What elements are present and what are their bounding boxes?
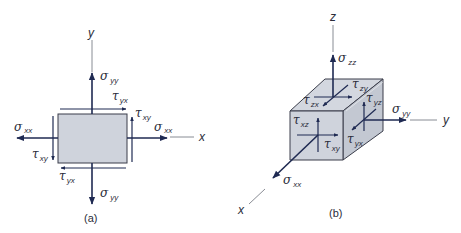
label-tau-xy-right: τxy (135, 106, 152, 122)
x-axis-label-a: x (198, 130, 206, 144)
stress-element-square (58, 114, 127, 163)
label-sigma-yy-bottom: σyy (100, 186, 119, 202)
label-sigma-yy: σyy (392, 102, 411, 118)
y-axis-label-a: y (87, 26, 95, 40)
label-tau-xy-left: τxy (32, 147, 49, 163)
panel-a-2d-element: y x σyy τyx τxy σxx σxx τxy τyx σyy (a) (14, 26, 206, 224)
label-sigma-xx-right: σxx (154, 120, 173, 135)
x-axis-line-b (249, 189, 265, 204)
panel-b-3d-element: z y x σzz τzy τzx τyz (237, 10, 450, 219)
label-sigma-xx: σxx (283, 173, 302, 189)
label-sigma-yy-top: σyy (100, 69, 119, 85)
x-axis-label-b: x (237, 203, 245, 217)
stress-diagram: y x σyy τyx τxy σxx σxx τxy τyx σyy (a) (0, 0, 461, 233)
diagram-canvas: y x σyy τyx τxy σxx σxx τxy τyx σyy (a) (0, 0, 461, 233)
y-axis-label-b: y (442, 113, 450, 127)
label-sigma-zz: σzz (338, 51, 356, 67)
z-axis-label: z (329, 10, 336, 24)
label-tau-yx-top: τyx (112, 89, 129, 105)
caption-a: (a) (84, 212, 97, 224)
label-sigma-xx-left: σxx (14, 120, 33, 135)
label-tau-yx-bottom: τyx (59, 169, 76, 185)
caption-b: (b) (329, 207, 342, 219)
